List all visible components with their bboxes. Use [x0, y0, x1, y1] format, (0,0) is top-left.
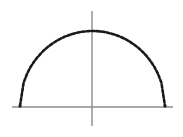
plot-canvas	[0, 0, 183, 137]
curve-right-endpoint-dot	[164, 105, 167, 108]
figure-root	[0, 0, 183, 137]
curve-left-endpoint-dot	[19, 105, 22, 108]
